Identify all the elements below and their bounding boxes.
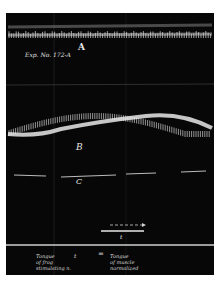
trace-b-label: B xyxy=(76,142,83,152)
legend-mid: t xyxy=(74,253,76,259)
time-marker-label: t xyxy=(120,233,122,240)
legend-equals: = xyxy=(98,251,104,257)
trace-c-label: C xyxy=(76,177,82,186)
experiment-annotation: Exp. No. 172-A xyxy=(25,51,71,58)
trace-c xyxy=(14,171,206,177)
legend-right: Tongue of muscle normalized xyxy=(110,253,138,271)
tracing-plate: A Exp. No. 172-A B C t Tongue of frog st… xyxy=(6,13,214,275)
trace-a-label: A xyxy=(78,42,85,52)
legend-left: Tongue of frog stimulating n. xyxy=(36,253,71,271)
